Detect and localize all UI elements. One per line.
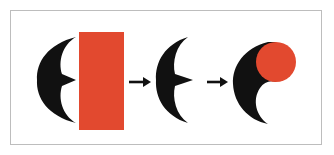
- crescent-shape: [156, 37, 193, 123]
- red-circle: [256, 42, 296, 82]
- right-arrow-icon: [129, 77, 151, 87]
- step-3: [233, 42, 296, 124]
- step-2: [156, 37, 193, 123]
- red-rectangle: [79, 32, 124, 130]
- diagram-canvas: [0, 0, 334, 155]
- right-arrow-icon: [207, 77, 228, 87]
- step-1: [37, 32, 124, 130]
- crescent-shape: [37, 37, 76, 123]
